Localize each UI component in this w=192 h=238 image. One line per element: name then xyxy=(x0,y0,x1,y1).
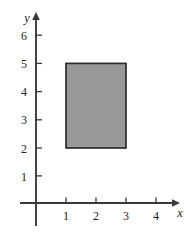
y-tick-label-1: 1 xyxy=(21,170,27,184)
y-axis-arrow-icon xyxy=(32,12,40,20)
x-axis-label: x xyxy=(176,206,183,220)
coordinate-plane-figure: 1 2 3 4 1 2 3 4 5 6 y x xyxy=(0,0,192,238)
y-tick-label-2: 2 xyxy=(21,142,27,156)
y-tick-label-5: 5 xyxy=(21,57,27,71)
y-tick-label-3: 3 xyxy=(21,113,27,127)
plot-canvas: 1 2 3 4 1 2 3 4 5 6 y x xyxy=(0,0,192,238)
y-axis-label: y xyxy=(22,11,30,25)
x-tick-label-2: 2 xyxy=(93,209,99,223)
x-tick-label-1: 1 xyxy=(63,209,69,223)
shaded-rectangle xyxy=(66,63,126,148)
x-tick-label-3: 3 xyxy=(123,209,129,223)
y-tick-label-6: 6 xyxy=(21,29,27,43)
x-tick-label-4: 4 xyxy=(153,209,159,223)
y-tick-label-4: 4 xyxy=(21,85,27,99)
